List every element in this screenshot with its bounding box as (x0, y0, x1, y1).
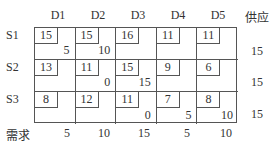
cost: 9 (157, 60, 180, 76)
demand-d5: 10 (192, 126, 232, 141)
cell: 1510 (76, 28, 117, 60)
demand-d4: 5 (150, 126, 190, 141)
cell: 12 (76, 92, 117, 124)
cost: 16 (116, 28, 139, 44)
cell: 11 (197, 28, 238, 60)
supply-s1: 15 (245, 44, 269, 59)
allocation: 10 (98, 43, 110, 58)
row-header-s1: S1 (6, 28, 30, 43)
column-header-d1: D1 (38, 8, 78, 23)
supply-header: 供应 (245, 8, 269, 26)
column-header-d4: D4 (158, 8, 198, 23)
allocation: 5 (64, 43, 70, 58)
cell: 9 (157, 60, 198, 92)
cell: 8 (35, 92, 76, 124)
allocation: 15 (139, 75, 151, 90)
cell: 1515 (116, 60, 157, 92)
cost: 13 (35, 60, 58, 76)
cell: 810 (197, 92, 238, 124)
row-header-s3: S3 (6, 92, 30, 107)
cell: 110 (76, 60, 117, 92)
supply-s3: 15 (245, 107, 269, 122)
cell: 13 (35, 60, 76, 92)
cost: 15 (116, 60, 139, 76)
cost: 11 (197, 28, 220, 44)
cost: 6 (197, 60, 220, 76)
allocation: 0 (145, 108, 151, 123)
cost: 8 (197, 92, 220, 108)
cost: 11 (116, 92, 139, 108)
allocation: 0 (104, 75, 110, 90)
allocation: 10 (221, 108, 233, 123)
cost: 8 (35, 92, 58, 108)
column-header-d2: D2 (78, 8, 118, 23)
row-header-s2: S2 (6, 60, 30, 75)
demand-d1: 5 (30, 126, 70, 141)
column-header-d5: D5 (198, 8, 238, 23)
cell: 11 (157, 28, 198, 60)
cost: 11 (76, 60, 99, 76)
cell: 155 (35, 28, 76, 60)
column-header-d3: D3 (118, 8, 158, 23)
cost: 15 (35, 28, 58, 44)
allocation: 5 (185, 108, 191, 123)
cost: 15 (76, 28, 99, 44)
cost: 7 (157, 92, 180, 108)
cell: 16 (116, 28, 157, 60)
cell: 6 (197, 60, 238, 92)
cell: 75 (157, 92, 198, 124)
demand-d2: 10 (70, 126, 110, 141)
supply-s2: 15 (245, 75, 269, 90)
cost-grid: 155 1510 16 11 11 13 110 1515 9 6 8 12 1… (34, 27, 237, 123)
cost: 12 (76, 92, 99, 108)
cost: 11 (157, 28, 180, 44)
demand-label: 需求 (6, 126, 30, 144)
cell: 110 (116, 92, 157, 124)
demand-d3: 15 (110, 126, 150, 141)
